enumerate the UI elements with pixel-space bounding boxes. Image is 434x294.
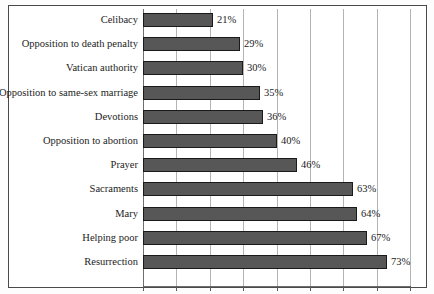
x-axis-tick [310, 286, 311, 291]
bar [143, 110, 263, 124]
bar-value-label: 73% [391, 254, 410, 270]
bar-chart: Celibacy21%Opposition to death penalty29… [0, 0, 434, 294]
bar-value-label: 21% [217, 12, 236, 28]
category-label: Opposition to death penalty [0, 36, 138, 52]
x-axis-tick [143, 286, 144, 291]
bar [143, 158, 297, 172]
chart-row: Resurrection73% [0, 254, 434, 270]
chart-row: Opposition to death penalty29% [0, 36, 434, 52]
category-label: Opposition to same-sex marriage [0, 85, 138, 101]
chart-row: Opposition to same-sex marriage35% [0, 85, 434, 101]
bar [143, 231, 367, 245]
category-label: Helping poor [0, 230, 138, 246]
bar [143, 37, 240, 51]
category-label: Sacraments [0, 181, 138, 197]
chart-row: Devotions36% [0, 109, 434, 125]
chart-row: Prayer46% [0, 157, 434, 173]
category-label: Resurrection [0, 254, 138, 270]
bar-value-label: 40% [281, 133, 300, 149]
chart-row: Helping poor67% [0, 230, 434, 246]
x-axis-tick [176, 286, 177, 291]
chart-row: Vatican authority30% [0, 60, 434, 76]
bar-value-label: 30% [247, 60, 266, 76]
x-axis-tick [377, 286, 378, 291]
bar-value-label: 35% [264, 85, 283, 101]
category-label: Prayer [0, 157, 138, 173]
category-label: Opposition to abortion [0, 133, 138, 149]
x-axis-tick [277, 286, 278, 291]
bar [143, 86, 260, 100]
bar [143, 13, 213, 27]
x-axis-tick [410, 286, 411, 291]
bar-value-label: 46% [301, 157, 320, 173]
bar-value-label: 29% [244, 36, 263, 52]
bar-value-label: 63% [357, 181, 376, 197]
chart-row: Mary64% [0, 206, 434, 222]
category-label: Mary [0, 206, 138, 222]
category-label: Celibacy [0, 12, 138, 28]
bar-value-label: 64% [361, 206, 380, 222]
category-label: Vatican authority [0, 60, 138, 76]
chart-row: Opposition to abortion40% [0, 133, 434, 149]
chart-row: Celibacy21% [0, 12, 434, 28]
x-axis-tick [210, 286, 211, 291]
x-axis-tick [243, 286, 244, 291]
x-axis-tick [343, 286, 344, 291]
category-label: Devotions [0, 109, 138, 125]
bar [143, 255, 387, 269]
bar [143, 61, 243, 75]
bar-value-label: 36% [267, 109, 286, 125]
chart-figure: Celibacy21%Opposition to death penalty29… [0, 0, 434, 294]
chart-row: Sacraments63% [0, 181, 434, 197]
bar-value-label: 67% [371, 230, 390, 246]
bar [143, 182, 353, 196]
bar [143, 134, 277, 148]
bar [143, 207, 357, 221]
